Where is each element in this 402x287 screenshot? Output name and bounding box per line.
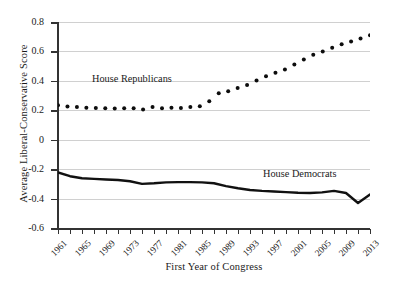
data-point-republicans xyxy=(122,106,126,110)
data-point-republicans xyxy=(368,33,370,37)
data-point-republicans xyxy=(321,49,325,53)
data-point-republicans xyxy=(94,106,98,110)
x-tick xyxy=(154,229,155,234)
y-tick-label: 0.2 xyxy=(0,104,44,115)
data-point-republicans xyxy=(302,58,306,62)
x-tick xyxy=(142,229,143,234)
data-point-republicans xyxy=(236,86,240,90)
x-tick xyxy=(118,229,119,234)
y-tick-label: -0.4 xyxy=(0,193,44,204)
data-point-republicans xyxy=(169,106,173,110)
data-point-republicans xyxy=(132,106,136,110)
data-point-republicans xyxy=(65,105,69,109)
data-point-republicans xyxy=(113,107,117,111)
data-point-republicans xyxy=(188,105,192,109)
data-point-republicans xyxy=(255,79,259,83)
data-point-republicans xyxy=(349,39,353,43)
data-point-republicans xyxy=(340,42,344,46)
data-point-republicans xyxy=(75,105,79,109)
chart-figure: Average Liberal-Conservative Score First… xyxy=(0,0,402,287)
data-point-republicans xyxy=(273,71,277,75)
y-tick-label: -0.2 xyxy=(0,163,44,174)
x-tick xyxy=(70,229,71,234)
data-point-republicans xyxy=(141,108,145,112)
data-point-republicans xyxy=(330,46,334,50)
x-tick xyxy=(334,229,335,234)
y-tick xyxy=(51,22,57,24)
x-tick xyxy=(310,229,311,234)
y-tick-label: 0.4 xyxy=(0,75,44,86)
data-point-republicans xyxy=(245,83,249,87)
x-tick xyxy=(250,229,251,234)
series-label-republicans: House Republicans xyxy=(92,73,172,84)
data-point-republicans xyxy=(283,67,287,71)
y-tick xyxy=(51,199,57,201)
x-tick xyxy=(322,229,323,234)
x-tick xyxy=(94,229,95,234)
data-point-republicans xyxy=(264,74,268,78)
x-tick xyxy=(106,229,107,234)
data-point-republicans xyxy=(217,91,221,95)
data-point-republicans xyxy=(292,62,296,66)
x-tick xyxy=(190,229,191,234)
x-tick xyxy=(238,229,239,234)
y-tick xyxy=(51,110,57,112)
x-tick xyxy=(166,229,167,234)
x-tick xyxy=(346,229,347,234)
x-tick xyxy=(214,229,215,234)
data-point-republicans xyxy=(311,53,315,57)
x-tick xyxy=(82,229,83,234)
y-tick xyxy=(51,228,57,230)
y-tick xyxy=(51,51,57,53)
y-tick xyxy=(51,169,57,171)
y-tick-label: 0.8 xyxy=(0,16,44,27)
y-tick xyxy=(51,140,57,142)
x-tick xyxy=(226,229,227,234)
x-tick xyxy=(370,229,371,234)
data-point-republicans xyxy=(103,106,107,110)
x-tick xyxy=(358,229,359,234)
data-point-republicans xyxy=(151,105,155,109)
data-point-republicans xyxy=(179,106,183,110)
x-tick xyxy=(202,229,203,234)
y-tick-label: 0.6 xyxy=(0,45,44,56)
data-point-republicans xyxy=(198,104,202,108)
data-point-republicans xyxy=(359,36,363,40)
y-tick xyxy=(51,81,57,83)
x-tick xyxy=(298,229,299,234)
x-tick xyxy=(130,229,131,234)
series-layer xyxy=(58,22,370,228)
x-tick xyxy=(286,229,287,234)
y-axis-title: Average Liberal-Conservative Score xyxy=(18,9,29,239)
x-tick xyxy=(58,229,59,234)
data-point-republicans xyxy=(160,106,164,110)
y-tick-label: 0 xyxy=(0,134,44,145)
x-tick xyxy=(262,229,263,234)
data-point-republicans xyxy=(226,89,230,93)
x-tick xyxy=(178,229,179,234)
y-tick-label: -0.6 xyxy=(0,222,44,233)
data-point-republicans xyxy=(58,103,60,107)
data-point-republicans xyxy=(207,99,211,103)
series-label-democrats: House Democrats xyxy=(263,168,337,179)
x-tick xyxy=(274,229,275,234)
data-point-republicans xyxy=(84,106,88,110)
